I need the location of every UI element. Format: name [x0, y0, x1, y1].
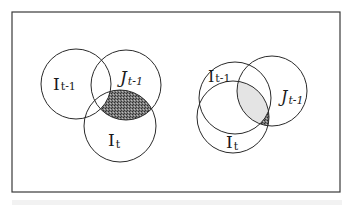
venn-figure: It-1 Jt-1 It It-1 Jt-1 It — [0, 0, 355, 205]
caption-fragment — [12, 200, 342, 205]
